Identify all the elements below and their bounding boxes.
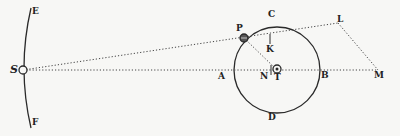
label-M: M — [374, 71, 384, 80]
label-A: A — [218, 72, 225, 81]
body-P — [240, 34, 248, 42]
orbit-diagram: E F S P C K A N T B D L M — [0, 0, 400, 136]
label-C: C — [268, 10, 275, 19]
line-SL — [23, 23, 338, 70]
label-P: P — [236, 24, 243, 33]
label-E: E — [32, 7, 39, 16]
label-T: T — [274, 73, 281, 82]
line-LM — [338, 23, 378, 70]
label-K: K — [266, 45, 274, 54]
label-S: S — [10, 64, 18, 75]
label-F: F — [32, 118, 38, 127]
label-N: N — [260, 72, 268, 81]
label-D: D — [268, 113, 276, 122]
body-S — [19, 66, 27, 74]
label-L: L — [337, 15, 343, 24]
line-PT — [244, 38, 277, 70]
label-B: B — [321, 71, 329, 80]
